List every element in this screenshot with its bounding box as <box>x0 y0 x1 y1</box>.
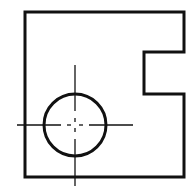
part-outline <box>25 12 184 177</box>
technical-drawing <box>0 0 195 196</box>
